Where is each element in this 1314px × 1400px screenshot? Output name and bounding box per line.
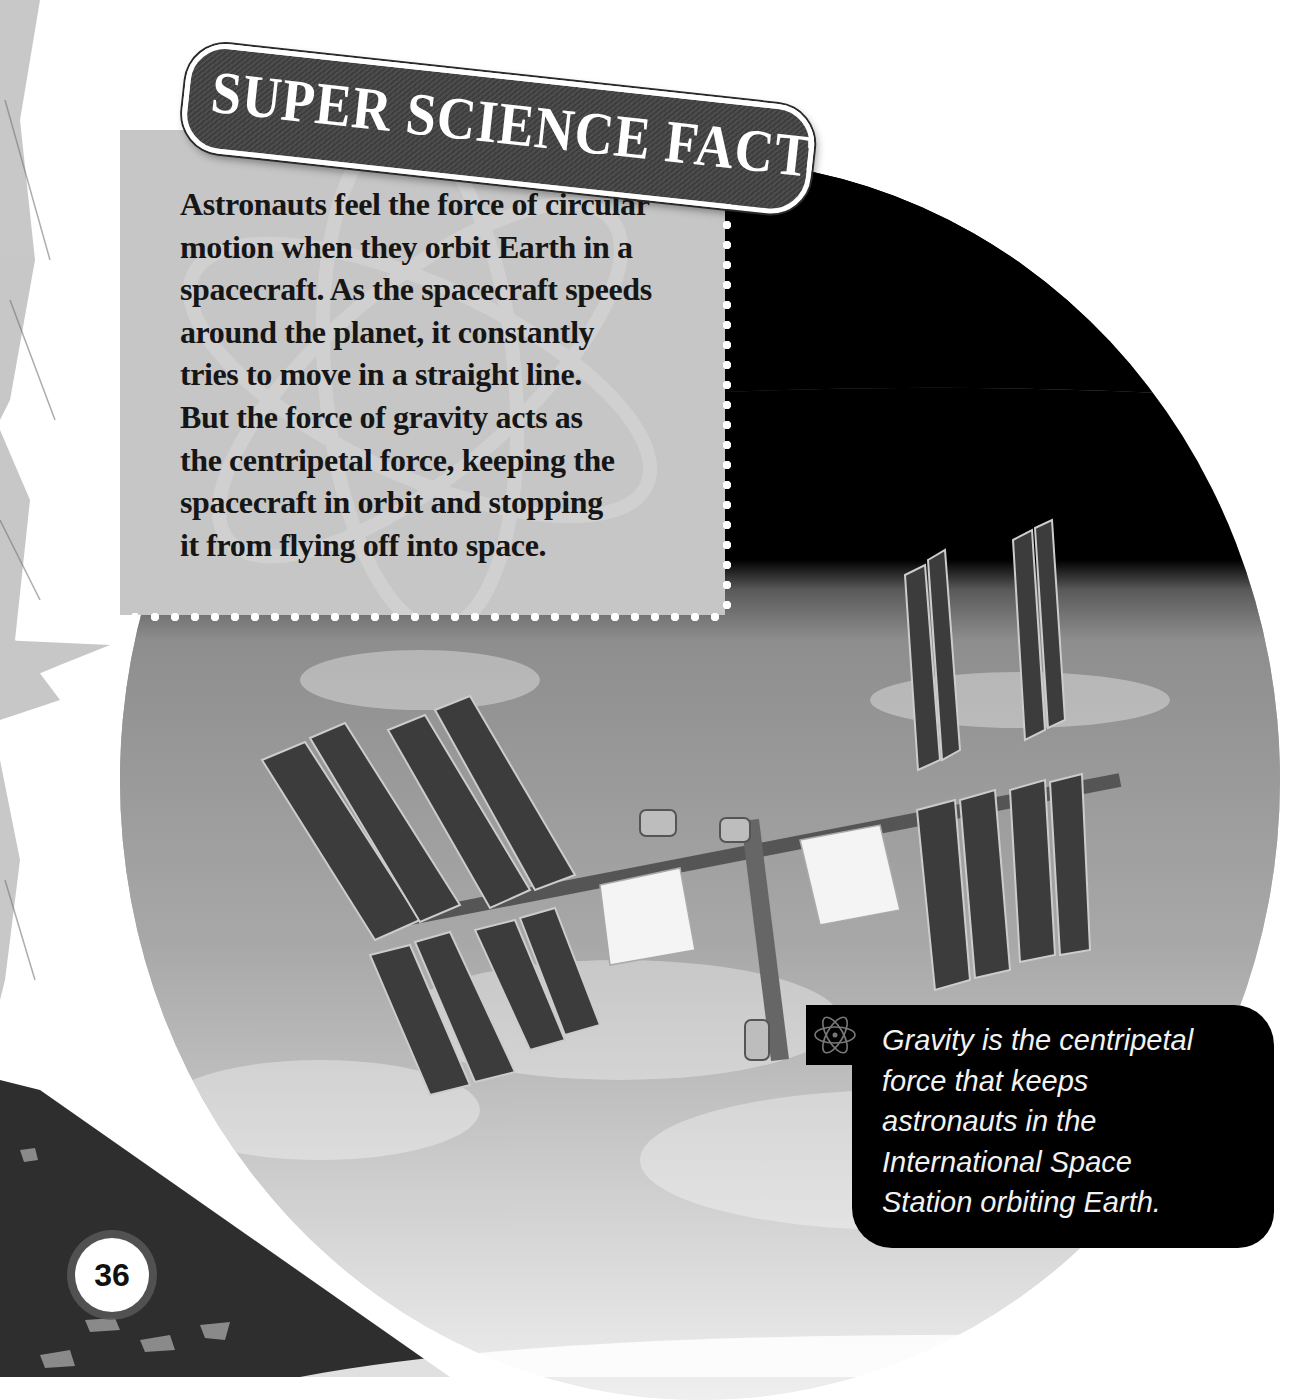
fact-paragraph: Astronauts feel the force of circular mo… xyxy=(180,183,700,566)
fact-line: tries to move in a straight line. xyxy=(180,353,700,396)
caption-paragraph: Gravity is the centripetal force that ke… xyxy=(882,1020,1262,1223)
atom-icon xyxy=(812,1012,858,1058)
fact-line: motion when they orbit Earth in a xyxy=(180,226,700,269)
fact-line: around the planet, it constantly xyxy=(180,311,700,354)
fact-line: it from flying off into space. xyxy=(180,524,700,567)
caption-line: astronauts in the xyxy=(882,1101,1262,1142)
caption-line: force that keeps xyxy=(882,1061,1262,1102)
page-number: 36 xyxy=(75,1238,149,1312)
perforated-edge-right xyxy=(722,180,732,620)
perforated-edge-bottom xyxy=(130,612,730,622)
caption-line: Gravity is the centripetal xyxy=(882,1020,1262,1061)
fact-line: spacecraft in orbit and stopping xyxy=(180,481,700,524)
fact-line: But the force of gravity acts as xyxy=(180,396,700,439)
fact-line: the centripetal force, keeping the xyxy=(180,439,700,482)
fact-line: spacecraft. As the spacecraft speeds xyxy=(180,268,700,311)
caption-line: Station orbiting Earth. xyxy=(882,1182,1262,1223)
caption-line: International Space xyxy=(882,1142,1262,1183)
